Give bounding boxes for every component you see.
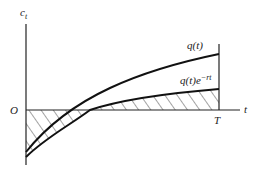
curve-q-label: q(t) xyxy=(187,39,203,52)
curve-discounted-label: q(t)e−rt xyxy=(180,73,212,87)
x-axis-label: t xyxy=(244,103,248,115)
y-axis-label: ct xyxy=(20,6,28,21)
hatched-area-positive xyxy=(90,89,219,110)
origin-label: O xyxy=(10,104,18,116)
diagram-canvas: ct O t T q(t) q(t)e−rt xyxy=(0,0,261,174)
end-label: T xyxy=(214,114,221,126)
